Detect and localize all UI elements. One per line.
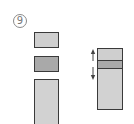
right-divider-lower (98, 68, 122, 69)
left-top-block (34, 32, 59, 48)
left-bottom-block (34, 79, 59, 124)
right-combined-block (97, 48, 123, 110)
figure-label: 9 (13, 14, 27, 28)
right-divider-upper (98, 60, 122, 61)
right-bottom-segment (98, 69, 122, 109)
left-middle-block (34, 56, 59, 72)
double-arrow-icon (89, 49, 97, 80)
